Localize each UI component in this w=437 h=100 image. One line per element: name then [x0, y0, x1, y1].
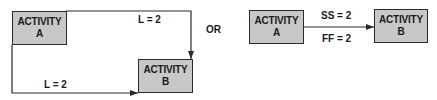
ss-lag-connector: [12, 45, 138, 93]
activity-b-id: B: [162, 76, 169, 88]
activity-a-id: A: [36, 28, 43, 40]
activity-a-label: ACTIVITY: [18, 16, 62, 28]
ss-label: SS = 2: [321, 10, 351, 21]
activity-a-box-left: ACTIVITY A: [12, 11, 67, 45]
activity-b-label: ACTIVITY: [379, 14, 423, 26]
activity-a-box-right: ACTIVITY A: [249, 10, 304, 44]
top-lag-label: L = 2: [138, 14, 161, 25]
activity-b-box-right: ACTIVITY B: [374, 9, 428, 43]
bottom-lag-label: L = 2: [44, 79, 67, 90]
activity-a-label: ACTIVITY: [255, 15, 299, 27]
ff-lag-connector: [66, 11, 191, 59]
or-separator: OR: [206, 24, 221, 35]
ff-label: FF = 2: [322, 33, 351, 44]
activity-b-label: ACTIVITY: [144, 64, 188, 76]
activity-b-id: B: [397, 26, 404, 38]
activity-a-id: A: [273, 27, 280, 39]
activity-b-box-left: ACTIVITY B: [138, 59, 193, 93]
